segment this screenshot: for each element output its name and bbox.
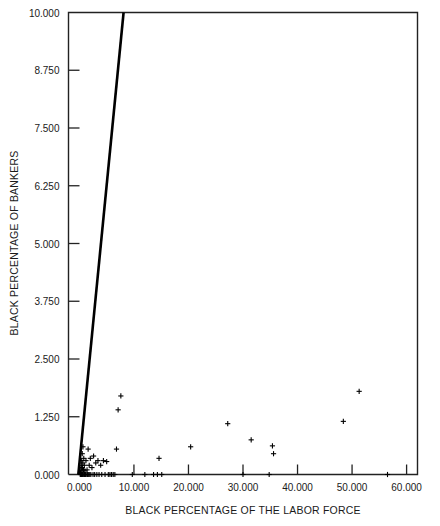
x-axis-title: BLACK PERCENTAGE OF THE LABOR FORCE xyxy=(125,504,360,516)
x-tick-label: 0.000 xyxy=(67,482,92,493)
data-point-marker xyxy=(341,419,346,424)
y-axis-ticks xyxy=(69,70,80,417)
y-tick-label: 6.250 xyxy=(34,181,59,192)
scatter-plot-figure: 0.00010.00020.00030.00040.00050.00060.00… xyxy=(0,0,440,526)
y-tick-label: 0.000 xyxy=(34,470,59,481)
regression-line xyxy=(78,13,123,475)
data-point-marker xyxy=(240,472,245,477)
y-tick-label: 5.000 xyxy=(34,239,59,250)
y-tick-label: 10.000 xyxy=(29,8,60,19)
data-point-marker xyxy=(249,437,254,442)
data-point-marker xyxy=(156,456,161,461)
data-point-marker xyxy=(385,472,390,477)
data-point-marker xyxy=(357,389,362,394)
x-tick-label: 20.000 xyxy=(173,482,204,493)
data-point-marker xyxy=(98,463,103,468)
data-point-marker xyxy=(188,444,193,449)
y-tick-label: 1.250 xyxy=(34,412,59,423)
data-point-marker xyxy=(142,472,147,477)
x-tick-label: 30.000 xyxy=(228,482,259,493)
data-point-marker xyxy=(159,472,164,477)
x-tick-label: 40.000 xyxy=(282,482,313,493)
y-axis-title: BLACK PERCENTAGE OF BANKERS xyxy=(8,151,20,336)
y-axis-tick-labels: 0.0001.2502.5003.7505.0006.2507.5008.750… xyxy=(29,8,60,481)
data-point-marker xyxy=(116,407,121,412)
data-point-marker xyxy=(101,458,106,463)
data-point-marker xyxy=(271,451,276,456)
x-tick-label: 60.000 xyxy=(391,482,422,493)
data-point-marker xyxy=(118,393,123,398)
x-axis-tick-labels: 0.00010.00020.00030.00040.00050.00060.00… xyxy=(67,482,422,493)
plot-frame xyxy=(69,13,418,475)
y-tick-label: 3.750 xyxy=(34,296,59,307)
x-tick-label: 10.000 xyxy=(119,482,150,493)
y-tick-label: 2.500 xyxy=(34,354,59,365)
x-tick-label: 50.000 xyxy=(337,482,368,493)
data-point-marker xyxy=(114,446,119,451)
y-tick-label: 8.750 xyxy=(34,65,59,76)
y-tick-label: 7.500 xyxy=(34,123,59,134)
axis-frame xyxy=(69,13,418,475)
data-point-marker xyxy=(270,443,275,448)
data-points xyxy=(78,389,390,477)
data-point-marker xyxy=(104,459,109,464)
plot-canvas: 0.00010.00020.00030.00040.00050.00060.00… xyxy=(0,0,440,526)
data-point-marker xyxy=(86,446,91,451)
reference-line xyxy=(78,13,123,475)
data-point-marker xyxy=(225,421,230,426)
data-point-marker xyxy=(267,472,272,477)
